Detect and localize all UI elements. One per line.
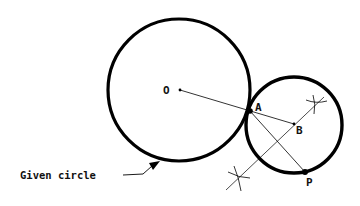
label-p: P (306, 176, 313, 189)
label-a: A (255, 101, 262, 114)
point-a (247, 108, 253, 114)
arc-mark-lower (228, 166, 250, 191)
line-o-b (180, 90, 294, 124)
construction-diagram: O A B P Given circle (0, 0, 360, 206)
label-o: O (163, 84, 170, 97)
point-o (179, 89, 182, 92)
label-b: B (296, 124, 303, 137)
leader-arrow-line (123, 166, 152, 175)
point-p (302, 169, 308, 175)
label-given-circle: Given circle (20, 169, 96, 181)
arrowhead-icon (149, 161, 160, 170)
point-b (293, 123, 296, 126)
